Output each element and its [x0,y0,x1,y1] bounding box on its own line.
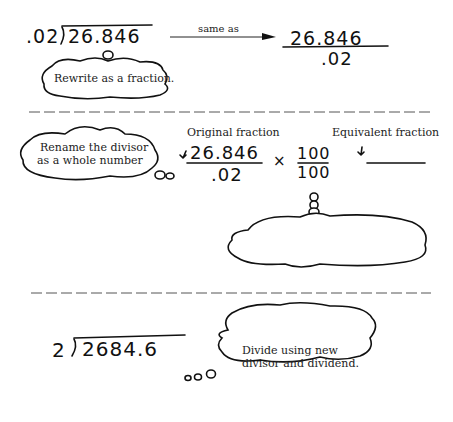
long-division-bracket-2-icon [0,0,453,422]
divisor-2: 2 [52,338,66,362]
dividend-2: 2684.6 [82,337,158,361]
bubble-divide-line1: Divide using new [242,344,338,357]
bubble-divide-line2: divisor and dividend. [242,357,359,370]
